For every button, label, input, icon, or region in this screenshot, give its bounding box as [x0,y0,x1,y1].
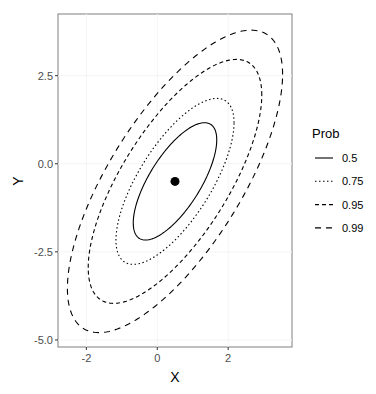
y-axis-title: Y [10,176,26,186]
legend-label: 0.99 [342,222,363,234]
x-tick-label: 2 [225,352,231,364]
y-tick-label: 0.0 [38,158,53,170]
x-axis-title: X [170,369,180,385]
x-tick-label: 0 [154,352,160,364]
center-point [171,177,180,186]
points [171,177,180,186]
legend-label: 0.95 [342,199,363,211]
y-tick-label: -2.5 [34,246,53,258]
legend: Prob 0.50.750.950.99 [312,126,363,234]
x-tick-label: -2 [81,352,91,364]
legend-label: 0.5 [342,152,357,164]
y-tick-label: 2.5 [38,70,53,82]
legend-title: Prob [312,126,339,141]
chart: -202 2.50.0-2.5-5.0 X Y Prob 0.50.750.95… [0,0,376,394]
y-tick-label: -5.0 [34,334,53,346]
y-axis: 2.50.0-2.5-5.0 [34,70,58,346]
legend-label: 0.75 [342,175,363,187]
x-axis: -202 [81,347,231,364]
